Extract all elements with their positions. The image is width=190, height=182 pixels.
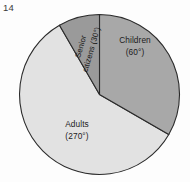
pie-chart-figure: 14 Children (60°) Senior citizens (30°) … — [0, 0, 190, 182]
pie-label-adults-value: (270°) — [65, 131, 88, 141]
pie-label-children-name: Children — [119, 35, 151, 45]
pie-chart-svg: Children (60°) Senior citizens (30°) Adu… — [0, 0, 190, 182]
pie-label-adults-name: Adults — [65, 119, 89, 129]
pie-label-children-value: (60°) — [126, 47, 145, 57]
